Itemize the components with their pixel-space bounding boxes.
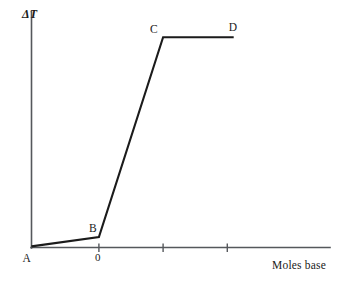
data-point-label-b: B [89, 223, 97, 235]
x-axis-title: Moles base [272, 260, 326, 272]
data-point-label-d: D [229, 22, 237, 34]
data-point-label-a: A [23, 253, 31, 265]
y-axis-title: ΔT [22, 8, 37, 20]
chart-figure: ΔT Moles base 0 A B C D [0, 0, 348, 282]
data-point-label-c: C [150, 24, 158, 36]
chart-background [0, 0, 348, 282]
x-tick-label-zero: 0 [95, 252, 101, 263]
chart-canvas [0, 0, 348, 282]
